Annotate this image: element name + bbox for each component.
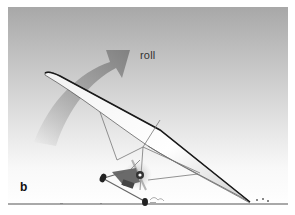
microlight-illustration (8, 7, 288, 215)
roll-label: roll (140, 49, 155, 61)
panel-label: b (20, 180, 27, 194)
rear-wheel (142, 198, 148, 206)
illustration-panel: roll b (8, 7, 288, 215)
